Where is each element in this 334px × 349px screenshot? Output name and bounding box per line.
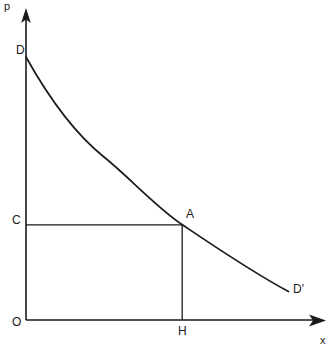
demand-curve-figure: p D C A D' O H x xyxy=(0,0,334,349)
price-level-point-label: C xyxy=(12,214,21,226)
curve-start-point-label: D xyxy=(16,44,25,56)
quantity-point-label: H xyxy=(178,325,187,337)
origin-point-label: O xyxy=(12,316,21,328)
figure-canvas xyxy=(0,0,334,349)
demand-curve-path xyxy=(26,57,289,292)
quantity-axis-label: x xyxy=(320,335,326,346)
equilibrium-point-label: A xyxy=(186,208,194,220)
curve-end-point-label: D' xyxy=(293,283,304,295)
price-axis-label: p xyxy=(4,1,10,12)
